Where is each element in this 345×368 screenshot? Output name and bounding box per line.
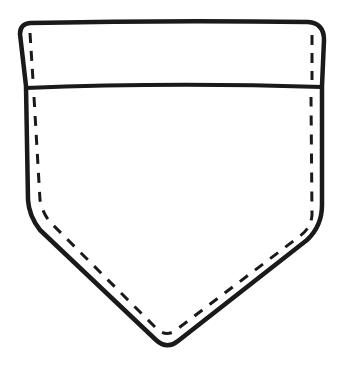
pocket-icon xyxy=(0,0,345,368)
pocket-illustration xyxy=(0,0,345,368)
stitching-body xyxy=(34,97,312,334)
pocket-outline xyxy=(20,21,324,345)
stitching-flap-left xyxy=(30,33,33,80)
flap-seam xyxy=(26,85,322,88)
